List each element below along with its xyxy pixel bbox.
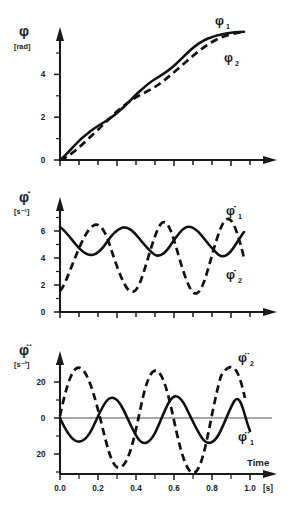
panel-velocity-svg: φ̇ [s⁻¹] 0 2 <box>0 180 295 330</box>
x-tick-label-2: 0.4 <box>130 484 142 493</box>
y-tick-label-velocity-0: 0 <box>41 308 46 317</box>
curve-velocity-phi2 <box>60 219 244 294</box>
x-axis-unit-time: [s] <box>263 484 273 493</box>
curve-angle-phi2 <box>60 32 244 160</box>
y-ticks-angle: 0 2 4 <box>41 53 60 165</box>
x-tick-label-5: 1.0 <box>244 484 256 493</box>
y-tick-label-angle-2: 2 <box>41 113 46 122</box>
y-axis-unit-angle: [rad] <box>14 42 31 51</box>
legend-label-acceleration-phi2: φ̈ <box>238 351 249 365</box>
y-tick-label-angle-0: 0 <box>41 156 46 165</box>
x-tick-label-1: 0.2 <box>92 484 104 493</box>
x-axis-arrow-acceleration <box>263 470 277 478</box>
legend-label-acceleration-phi1: φ̈ <box>238 430 249 444</box>
x-tick-label-4: 0.8 <box>206 484 218 493</box>
legend-label-velocity-phi1: φ̇ <box>226 204 236 218</box>
x-tick-label-0: 0.0 <box>54 484 66 493</box>
y-tick-label-acceleration-pos20: 20 <box>36 378 46 387</box>
legend-sub-angle-phi2: 2 <box>235 59 239 68</box>
y-axis-name-angle: φ <box>19 23 29 39</box>
curve-acceleration-phi2 <box>60 367 245 473</box>
y-ticks-acceleration: 20 0 20 <box>36 364 60 472</box>
x-axis-arrow-angle <box>263 156 277 164</box>
x-tick-label-3: 0.6 <box>168 484 180 493</box>
y-tick-label-velocity-6: 6 <box>41 227 46 236</box>
legend-sub-acceleration-phi1: 1 <box>250 438 254 447</box>
y-axis-unit-acceleration: [s⁻²] <box>14 360 30 369</box>
y-axis-arrow-acceleration <box>56 351 64 365</box>
y-axis-angle <box>56 27 64 160</box>
x-axis-name-time: Time <box>247 457 269 468</box>
legend-label-velocity-phi2: φ̇ <box>226 268 236 282</box>
y-axis-label-acceleration: φ̈ [s⁻²] <box>14 342 32 369</box>
y-tick-label-angle-4: 4 <box>41 70 46 79</box>
legend-acceleration-phi1: φ̈ 1 <box>238 430 254 447</box>
y-axis-unit-velocity: [s⁻¹] <box>14 207 30 216</box>
legend-sub-velocity-phi2: 2 <box>238 276 242 285</box>
panel-acceleration: φ̈ [s⁻²] 20 <box>0 330 295 514</box>
figure-three-panel-kinematics: φ [rad] 0 2 4 <box>0 0 295 514</box>
legend-angle-phi2: φ 2 <box>224 51 239 68</box>
y-axis-label-velocity: φ̇ [s⁻¹] <box>14 189 30 216</box>
legend-sub-acceleration-phi2: 2 <box>250 359 254 368</box>
legend-sub-angle-phi1: 1 <box>226 22 230 31</box>
x-ticks-acceleration: 0.0 0.2 0.4 0.6 0.8 1.0 <box>54 474 256 493</box>
panel-velocity: φ̇ [s⁻¹] 0 2 <box>0 180 295 330</box>
y-tick-label-acceleration-0: 0 <box>41 414 46 423</box>
y-axis-arrow-velocity <box>56 197 64 211</box>
x-axis-velocity <box>60 308 277 316</box>
legend-label-angle-phi2: φ <box>224 51 233 65</box>
x-axis-angle <box>60 156 277 164</box>
y-axis-arrow-angle <box>56 27 64 41</box>
panel-acceleration-svg: φ̈ [s⁻²] 20 <box>0 330 295 514</box>
legend-velocity-phi2: φ̇ 2 <box>226 268 242 285</box>
y-axis-name-velocity: φ̇ <box>19 189 30 205</box>
x-axis-acceleration <box>60 470 277 478</box>
y-tick-label-acceleration-neg20: 20 <box>36 450 46 459</box>
y-ticks-velocity: 0 2 4 6 <box>41 218 60 318</box>
legend-sub-velocity-phi1: 1 <box>238 212 242 221</box>
legend-angle-phi1: φ 1 <box>215 14 230 31</box>
y-tick-label-velocity-2: 2 <box>41 281 46 290</box>
y-tick-label-velocity-4: 4 <box>41 254 46 263</box>
y-axis-name-acceleration: φ̈ <box>19 342 32 358</box>
y-axis-velocity <box>56 197 64 312</box>
legend-label-angle-phi1: φ <box>215 14 224 28</box>
curve-angle-phi1 <box>60 32 244 160</box>
panel-angle: φ [rad] 0 2 4 <box>0 0 295 180</box>
panel-angle-svg: φ [rad] 0 2 4 <box>0 0 295 180</box>
y-axis-label-angle: φ [rad] <box>14 23 31 51</box>
x-axis-arrow-velocity <box>263 308 277 316</box>
legend-acceleration-phi2: φ̈ 2 <box>238 351 254 368</box>
curve-acceleration-phi1 <box>60 396 250 443</box>
